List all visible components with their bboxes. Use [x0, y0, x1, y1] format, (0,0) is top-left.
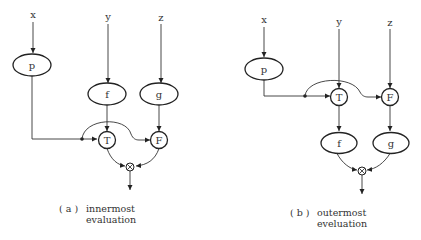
node-T-label: T [104, 135, 111, 146]
node-g-label: g [156, 89, 163, 100]
diagram-canvas: x y z p f g T F ( a ) in [0, 0, 421, 240]
arrow-F-to-merge [136, 149, 159, 167]
diagram-innermost: x y z p f g T F ( a ) in [13, 9, 178, 225]
input-y-label: y [104, 11, 111, 22]
input-x-label: x [261, 14, 267, 25]
input-z-label: z [158, 12, 163, 23]
arrow-T-to-merge [107, 149, 125, 167]
arrow-f-to-merge [337, 154, 357, 171]
input-z-label: z [387, 17, 392, 28]
caption-line1: outermost [317, 207, 366, 218]
arrow-g-to-merge [367, 154, 390, 171]
diagram-outermost: x y z p T F f g ( b ) outermost eveluati [245, 14, 409, 229]
arrow-junction-to-F [82, 122, 150, 140]
node-p-label: p [261, 64, 267, 75]
node-g-label: g [388, 138, 395, 149]
arrow-p-to-T [32, 76, 97, 139]
node-T-label: T [336, 92, 343, 103]
input-x-label: x [30, 9, 36, 20]
node-p-label: p [29, 60, 35, 71]
node-F-label: F [387, 92, 394, 103]
input-y-label: y [335, 16, 342, 27]
node-F-label: F [156, 135, 163, 146]
caption-line1: innermost [86, 203, 135, 214]
caption-line2: eveluation [317, 218, 367, 229]
caption-line2: evaluation [86, 214, 136, 225]
caption-label: ( b ) [290, 207, 310, 218]
merge-icon [126, 163, 134, 171]
caption-label: ( a ) [59, 203, 78, 214]
merge-icon [358, 167, 366, 175]
